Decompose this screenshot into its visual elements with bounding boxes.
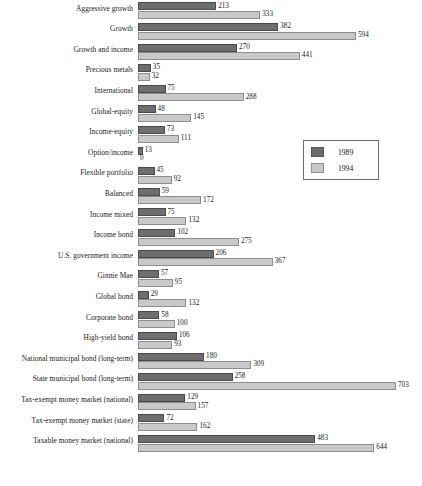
- bar-1989: 102: [138, 229, 396, 237]
- chart-row: Global bond29132: [0, 289, 422, 310]
- category-label: Ginnie Mae: [0, 271, 133, 280]
- bar-value-label: 206: [214, 249, 227, 258]
- bar-rect: [138, 332, 177, 340]
- chart-row: Income bond102275: [0, 228, 422, 249]
- bar-value-label: 172: [201, 196, 214, 205]
- bar-rect: [138, 126, 165, 134]
- bar-rect: [138, 167, 155, 175]
- bar-rect: [138, 394, 185, 402]
- category-label: Precious metals: [0, 65, 133, 74]
- bar-rect: [138, 85, 166, 93]
- bar-1989: 106: [138, 332, 396, 340]
- bar-value-label: 100: [175, 319, 188, 328]
- bar-rect: [138, 188, 160, 196]
- category-label: Income bond: [0, 230, 133, 239]
- bar-group: 213333: [138, 1, 422, 22]
- category-label: Global-equity: [0, 107, 133, 116]
- bar-1989: 258: [138, 373, 396, 381]
- chart-row: Growth382594: [0, 22, 422, 43]
- bar-1989: 59: [138, 188, 396, 196]
- bar-rect: [138, 414, 164, 422]
- bar-1989: 29: [138, 291, 396, 299]
- bar-value-label: 72: [164, 414, 173, 423]
- category-label: Income-equity: [0, 127, 133, 136]
- bar-1989: 213: [138, 2, 396, 10]
- category-label: Global bond: [0, 292, 133, 301]
- bar-1994: 93: [138, 341, 396, 349]
- bar-group: 73111: [138, 125, 422, 146]
- bar-1994: 703: [138, 382, 396, 390]
- category-label: Corporate bond: [0, 313, 133, 322]
- bar-rect: [138, 402, 196, 410]
- bar-rect: [138, 299, 186, 307]
- bar-rect: [138, 44, 237, 52]
- bar-rect: [138, 353, 204, 361]
- category-label: International: [0, 86, 133, 95]
- bar-group: 72162: [138, 413, 422, 434]
- bar-value-label: 132: [186, 216, 199, 225]
- bar-1994: 367: [138, 258, 396, 266]
- bar-1994: 157: [138, 402, 396, 410]
- chart-row: Balanced59172: [0, 186, 422, 207]
- bar-rect: [138, 250, 214, 258]
- chart-row: National municipal bond (long-term)18030…: [0, 351, 422, 372]
- chart-row: Global-equity48145: [0, 104, 422, 125]
- chart-row: Precious metals3532: [0, 63, 422, 84]
- bar-rect: [138, 196, 201, 204]
- bar-value-label: 382: [278, 22, 291, 31]
- bar-group: 10693: [138, 331, 422, 352]
- bar-rect: [138, 238, 239, 246]
- bar-value-label: 45: [155, 166, 164, 175]
- chart-row: Ginnie Mae5795: [0, 269, 422, 290]
- bar-1989: 57: [138, 270, 396, 278]
- bar-1989: 58: [138, 311, 396, 319]
- bar-1994: 172: [138, 196, 396, 204]
- chart-row: U.S. government income206367: [0, 248, 422, 269]
- bar-rect: [138, 435, 315, 443]
- bar-value-label: 288: [244, 93, 257, 102]
- bar-rect: [138, 341, 172, 349]
- bar-1989: 35: [138, 64, 396, 72]
- bar-value-label: 58: [159, 311, 168, 320]
- bar-value-label: 333: [260, 10, 273, 19]
- bar-value-label: 48: [156, 105, 165, 114]
- chart-legend: 1989 1994: [303, 140, 379, 180]
- bar-value-label: 644: [374, 443, 387, 452]
- bar-rect: [138, 135, 179, 143]
- bar-value-label: 73: [165, 125, 174, 134]
- bar-rect: [138, 361, 251, 369]
- bar-1989: 73: [138, 126, 396, 134]
- bar-1994: 288: [138, 93, 396, 101]
- category-label: State municipal bond (long-term): [0, 374, 133, 383]
- bar-1994: 309: [138, 361, 396, 369]
- category-label: Aggressive growth: [0, 4, 133, 13]
- chart-row: Growth and income270441: [0, 42, 422, 63]
- bar-value-label: 92: [172, 175, 181, 184]
- bar-1994: 594: [138, 32, 396, 40]
- bar-rect: [138, 208, 166, 216]
- bar-value-label: 29: [149, 290, 158, 299]
- legend-swatch-1994: [311, 163, 324, 173]
- category-label: Option/income: [0, 148, 133, 157]
- legend-label-1989: 1989: [338, 147, 353, 158]
- bar-value-label: 59: [160, 187, 169, 196]
- category-label: High-yield bond: [0, 333, 133, 342]
- bar-rect: [138, 444, 374, 452]
- category-label: Taxable money market (national): [0, 436, 133, 445]
- bar-value-label: 594: [356, 31, 369, 40]
- bar-group: 180309: [138, 351, 422, 372]
- bar-rect: [138, 258, 273, 266]
- bar-value-label: 13: [143, 146, 152, 155]
- bar-value-label: 258: [233, 372, 246, 381]
- bar-1989: 382: [138, 23, 396, 31]
- chart-row: Income mixed75132: [0, 207, 422, 228]
- bar-1994: 441: [138, 52, 396, 60]
- chart-row: Corporate bond58100: [0, 310, 422, 331]
- bar-value-label: 95: [173, 278, 182, 287]
- bar-group: 102275: [138, 228, 422, 249]
- legend-swatch-1989: [311, 147, 324, 157]
- bar-1994: 32: [138, 73, 396, 81]
- bar-1994: 644: [138, 444, 396, 452]
- bar-rect: [138, 64, 151, 72]
- bar-rect: [138, 311, 159, 319]
